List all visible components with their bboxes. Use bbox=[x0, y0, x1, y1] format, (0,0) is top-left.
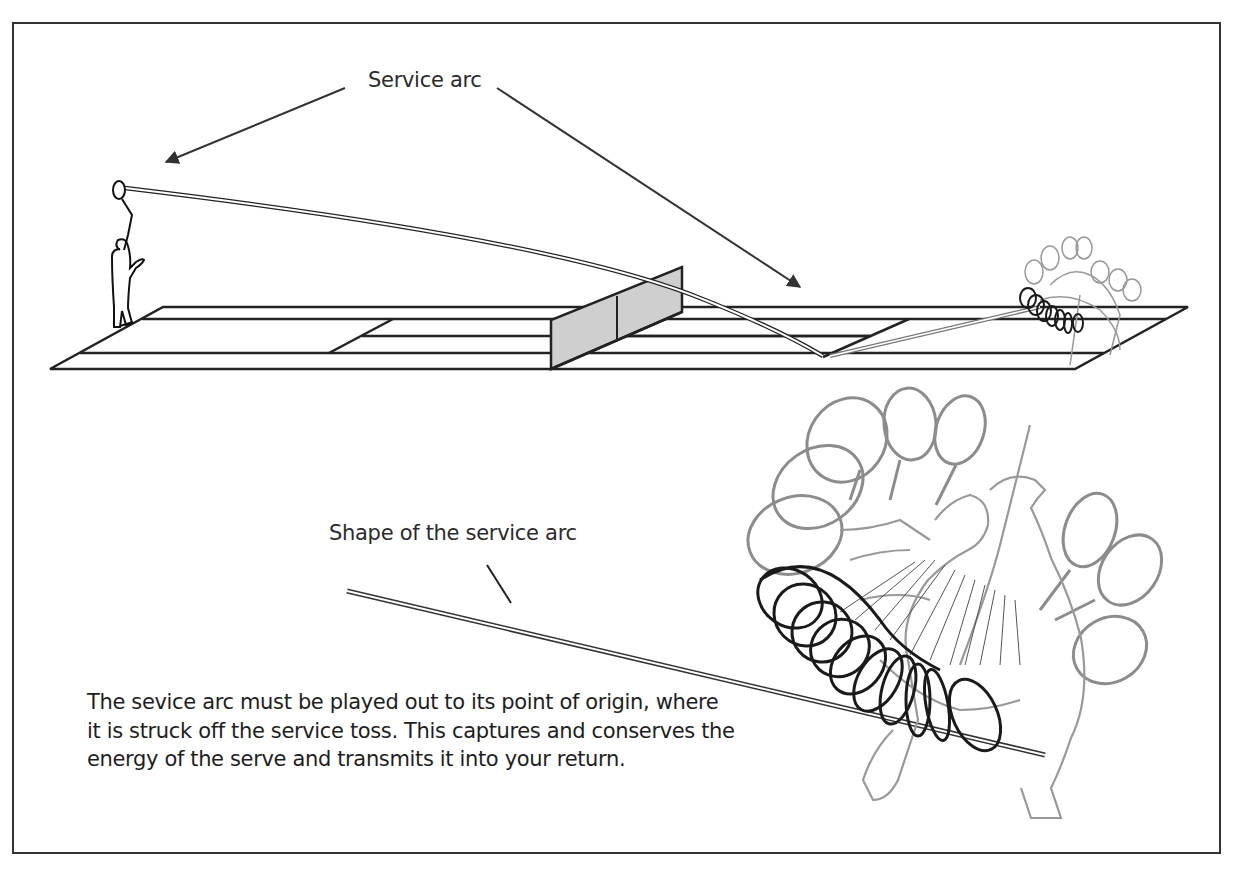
shape-of-arc-label: Shape of the service arc bbox=[329, 521, 577, 545]
returner-swing-large bbox=[737, 382, 1175, 818]
arrow-to-arc-icon bbox=[497, 88, 800, 287]
caption-line: it is struck off the service toss. This … bbox=[87, 717, 787, 746]
service-arc-label: Service arc bbox=[368, 68, 482, 92]
service-arc-arrows bbox=[166, 88, 800, 287]
shape-pointer-icon bbox=[487, 565, 511, 603]
arrow-to-server-icon bbox=[166, 88, 345, 162]
caption-line: The sevice arc must be played out to its… bbox=[87, 688, 787, 717]
caption-line: energy of the serve and transmits it int… bbox=[87, 745, 787, 774]
returner-swing-small bbox=[1020, 237, 1141, 365]
server-figure bbox=[112, 181, 144, 327]
caption: The sevice arc must be played out to its… bbox=[87, 688, 787, 774]
